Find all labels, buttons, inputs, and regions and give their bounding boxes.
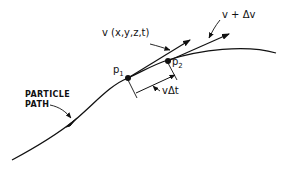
velocity-label-leader [150,44,170,50]
dimension-extension-p1 [128,80,137,98]
particle-path-label: PARTICLE PATH [25,91,70,109]
point-p1-label: p1 [113,65,124,75]
displacement-label: vΔt [162,86,179,96]
displacement-label-leader [153,86,160,91]
point-p2-subscript: 2 [178,62,182,70]
velocity-plus-delta-leader [209,20,220,38]
particle-path-label-line2: PATH [25,101,70,109]
velocity-plus-delta-label: v + Δv [222,10,255,20]
diagram-canvas [0,0,293,169]
point-p2-label: p2 [172,57,183,67]
point-p1-subscript: 1 [119,70,123,78]
point-p2-dot [165,58,171,64]
particle-path-diagram: PARTICLE PATH v (x,y,z,t) v + Δv vΔt p1 … [0,0,293,169]
particle-path-label-line1: PARTICLE [25,91,70,99]
path-direction-arrow-icon [66,118,77,127]
velocity-label: v (x,y,z,t) [102,28,149,38]
point-p1-dot [125,75,131,81]
